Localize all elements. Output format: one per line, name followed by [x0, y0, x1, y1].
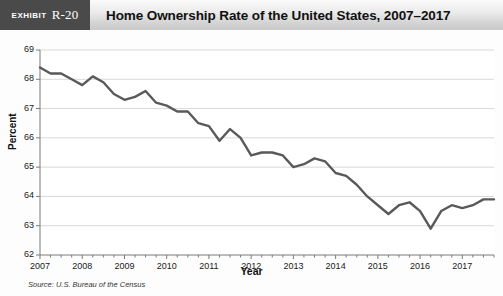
- x-axis-tick-label: 2009: [104, 261, 144, 271]
- line-chart-plot: [0, 30, 503, 296]
- source-note: Source: U.S. Bureau of the Census: [28, 280, 145, 289]
- x-axis-tick-label: 2013: [273, 261, 313, 271]
- exhibit-figure: Exhibit R-20 Home Ownership Rate of the …: [0, 0, 503, 296]
- y-axis-tick-label: 67: [4, 103, 34, 113]
- x-axis-tick-label: 2016: [400, 261, 440, 271]
- y-axis-tick-label: 68: [4, 73, 34, 83]
- exhibit-number-label: R-20: [52, 7, 79, 23]
- exhibit-header-bar: Exhibit R-20 Home Ownership Rate of the …: [0, 0, 503, 30]
- y-axis-tick-label: 63: [4, 220, 34, 230]
- chart-area: Percent Year Source: U.S. Bureau of the …: [0, 30, 503, 296]
- y-axis-tick-label: 64: [4, 190, 34, 200]
- exhibit-tag: Exhibit R-20: [0, 0, 90, 30]
- x-axis-tick-label: 2008: [62, 261, 102, 271]
- exhibit-word-label: Exhibit: [12, 11, 47, 20]
- y-axis-tick-label: 69: [4, 44, 34, 54]
- x-axis-tick-label: 2015: [358, 261, 398, 271]
- x-axis-tick-label: 2017: [442, 261, 482, 271]
- y-axis-tick-label: 65: [4, 161, 34, 171]
- x-axis-tick-label: 2010: [147, 261, 187, 271]
- x-axis-tick-label: 2012: [231, 261, 271, 271]
- y-axis-tick-label: 62: [4, 249, 34, 259]
- y-axis-tick-label: 66: [4, 132, 34, 142]
- exhibit-title: Home Ownership Rate of the United States…: [90, 0, 503, 30]
- x-axis-tick-label: 2007: [20, 261, 60, 271]
- x-axis-tick-label: 2014: [316, 261, 356, 271]
- x-axis-tick-label: 2011: [189, 261, 229, 271]
